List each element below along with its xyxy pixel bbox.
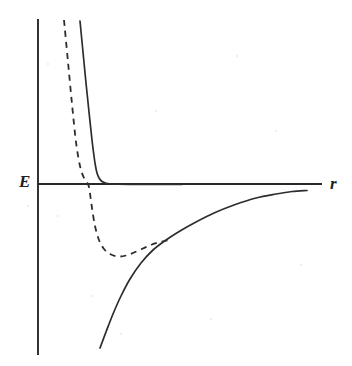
x-axis-label: r [330, 175, 337, 192]
axes-group [38, 19, 322, 355]
potential-energy-figure: E r [0, 0, 352, 366]
y-axis-label: E [19, 173, 30, 190]
curve-hard-core-repulsion [80, 21, 182, 184]
curve-attractive-tail [100, 191, 307, 349]
curve-lennard-jones-dashed [64, 20, 172, 257]
potential-energy-plot [0, 0, 352, 366]
